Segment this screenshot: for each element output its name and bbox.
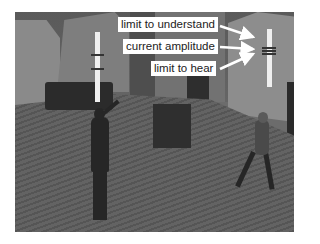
pole-right-tick-understand <box>262 47 276 49</box>
sound-level-pole-right <box>267 29 272 87</box>
pole-left-tick-lower <box>91 68 104 70</box>
pole-right-tick-hear <box>262 53 276 55</box>
avatar-right-body <box>255 120 269 155</box>
avatar-right-head <box>258 112 268 123</box>
pole-left-tick-upper <box>91 54 104 56</box>
label-limit-to-hear: limit to hear <box>151 61 216 76</box>
dark-box <box>153 104 191 148</box>
sound-level-pole-left <box>95 32 100 102</box>
avatar-left-body <box>91 117 109 172</box>
right-edge-shadow <box>287 82 294 137</box>
right-wall <box>228 12 294 122</box>
label-current-amplitude: current amplitude <box>123 39 218 54</box>
pole-right-tick-amplitude <box>262 50 276 52</box>
couch <box>45 82 113 110</box>
avatar-left-legs <box>93 170 107 220</box>
label-limit-to-understand: limit to understand <box>118 17 218 32</box>
